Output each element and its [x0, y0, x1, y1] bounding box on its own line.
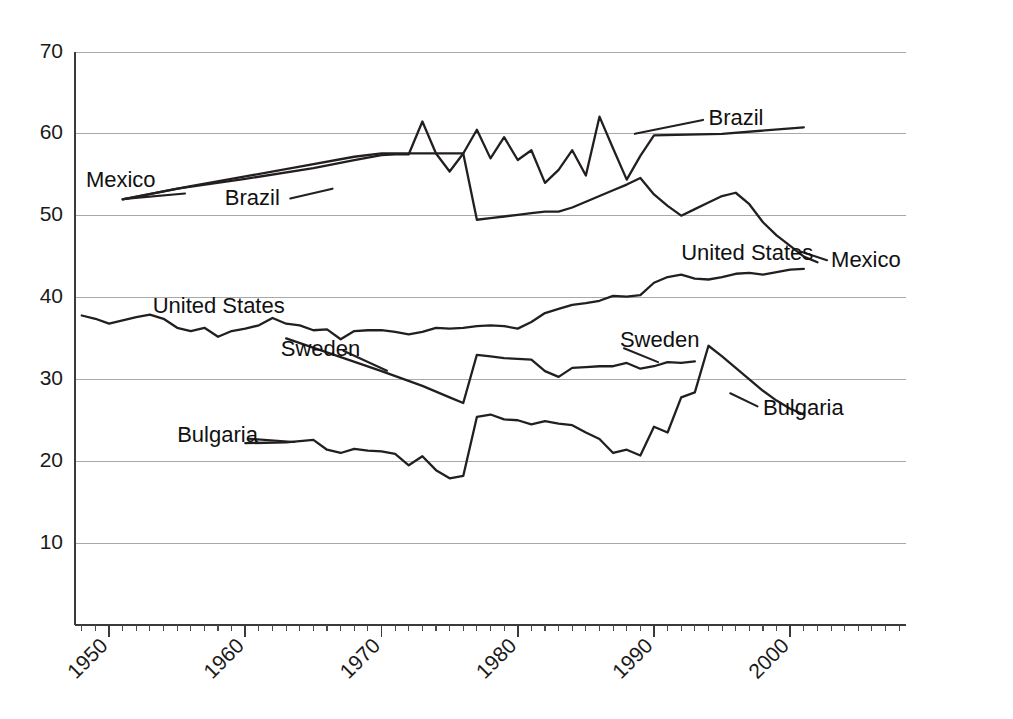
- series-label-mexico-right: Mexico: [831, 247, 901, 272]
- y-tick-label-60: 60: [40, 120, 63, 143]
- y-tick-label-40: 40: [40, 284, 63, 307]
- series-label-united-states-left: United States: [153, 293, 285, 318]
- y-tick-label-50: 50: [40, 202, 63, 225]
- series-label-sweden-right: Sweden: [620, 327, 700, 352]
- y-tick-label-10: 10: [40, 530, 63, 553]
- series-label-bulgaria-right: Bulgaria: [763, 395, 844, 420]
- chart-background: [0, 0, 1013, 719]
- series-label-brazil-right: Brazil: [708, 105, 763, 130]
- series-label-sweden-left: Sweden: [281, 336, 361, 361]
- series-label-united-states-right: United States: [681, 240, 813, 265]
- line-chart: 10203040506070 195019601970198019902000 …: [0, 0, 1013, 719]
- y-tick-label-30: 30: [40, 366, 63, 389]
- series-label-mexico-left: Mexico: [86, 167, 156, 192]
- y-tick-label-70: 70: [40, 39, 63, 62]
- y-tick-label-20: 20: [40, 448, 63, 471]
- series-label-brazil-left: Brazil: [225, 185, 280, 210]
- series-label-bulgaria-left: Bulgaria: [177, 422, 258, 447]
- chart-figure: 10203040506070 195019601970198019902000 …: [0, 0, 1013, 719]
